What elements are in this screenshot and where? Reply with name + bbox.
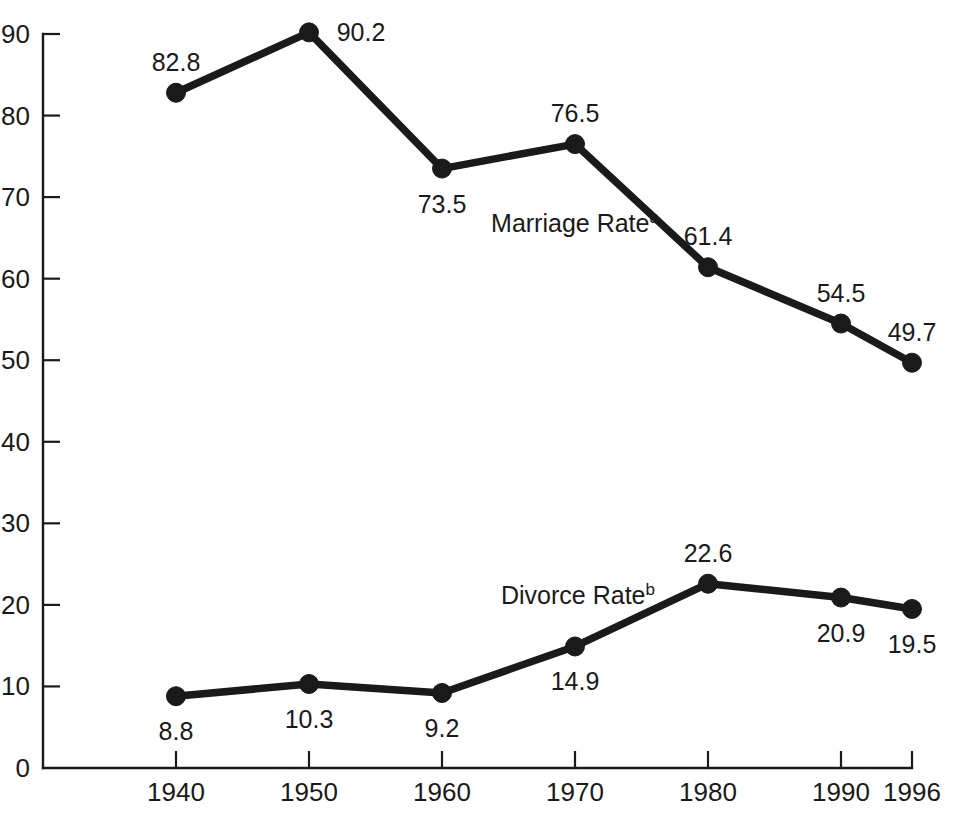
series-annotations-layer: Marriage RateaDivorce Rateb xyxy=(491,208,659,609)
data-point-marker[interactable] xyxy=(300,23,319,42)
data-point-label: 10.3 xyxy=(285,705,334,733)
y-tick-label: 20 xyxy=(1,590,30,620)
y-tick-label: 0 xyxy=(16,753,30,783)
y-axis: 0102030405060708090 xyxy=(1,19,60,783)
data-labels-layer: 82.890.273.576.561.454.549.78.810.39.214… xyxy=(152,18,937,745)
data-point-marker[interactable] xyxy=(433,683,452,702)
x-tick-label: 1940 xyxy=(147,777,205,807)
y-tick-label: 90 xyxy=(1,19,30,49)
data-point-marker[interactable] xyxy=(300,674,319,693)
x-tick-label: 1970 xyxy=(546,777,604,807)
data-point-label: 8.8 xyxy=(159,717,194,745)
data-point-label: 90.2 xyxy=(337,18,386,46)
data-point-marker[interactable] xyxy=(433,159,452,178)
x-tick-label: 1950 xyxy=(280,777,338,807)
x-tick-label: 1996 xyxy=(883,777,941,807)
series-annotation-superscript: b xyxy=(646,580,655,599)
series-annotation-text: Divorce Rate xyxy=(501,581,646,609)
data-point-marker[interactable] xyxy=(832,314,851,333)
data-point-marker[interactable] xyxy=(566,637,585,656)
data-point-marker[interactable] xyxy=(167,83,186,102)
line-chart: 0102030405060708090 19401950196019701980… xyxy=(0,0,953,813)
data-point-label: 61.4 xyxy=(684,222,733,250)
series-annotation-marriage-rate: Marriage Ratea xyxy=(491,208,659,237)
series-annotation-superscript: a xyxy=(649,208,659,227)
data-point-label: 19.5 xyxy=(888,630,937,658)
series-annotation-text: Marriage Rate xyxy=(491,209,649,237)
data-point-marker[interactable] xyxy=(566,135,585,154)
y-tick-label: 30 xyxy=(1,508,30,538)
data-point-marker[interactable] xyxy=(832,588,851,607)
data-point-marker[interactable] xyxy=(699,574,718,593)
y-tick-label: 80 xyxy=(1,101,30,131)
data-point-label: 49.7 xyxy=(888,318,937,346)
x-axis: 1940195019601970198019901996 xyxy=(43,751,941,807)
y-tick-label: 50 xyxy=(1,345,30,375)
x-tick-label: 1960 xyxy=(413,777,471,807)
series-line-marriage-rate xyxy=(176,32,912,362)
y-tick-label: 10 xyxy=(1,671,30,701)
y-tick-label: 70 xyxy=(1,182,30,212)
data-point-marker[interactable] xyxy=(699,258,718,277)
data-point-label: 82.8 xyxy=(152,48,201,76)
data-point-marker[interactable] xyxy=(167,687,186,706)
data-point-label: 73.5 xyxy=(418,190,467,218)
x-tick-label: 1980 xyxy=(679,777,737,807)
data-point-label: 76.5 xyxy=(551,99,600,127)
data-point-label: 9.2 xyxy=(425,714,460,742)
data-point-label: 22.6 xyxy=(684,539,733,567)
data-point-marker[interactable] xyxy=(903,599,922,618)
data-point-label: 14.9 xyxy=(551,667,600,695)
data-point-marker[interactable] xyxy=(903,353,922,372)
x-tick-label: 1990 xyxy=(812,777,870,807)
chart-container: 0102030405060708090 19401950196019701980… xyxy=(0,0,953,813)
y-tick-label: 60 xyxy=(1,264,30,294)
series-annotation-divorce-rate: Divorce Rateb xyxy=(501,580,655,609)
y-tick-label: 40 xyxy=(1,427,30,457)
data-point-label: 54.5 xyxy=(817,279,866,307)
data-point-label: 20.9 xyxy=(817,619,866,647)
